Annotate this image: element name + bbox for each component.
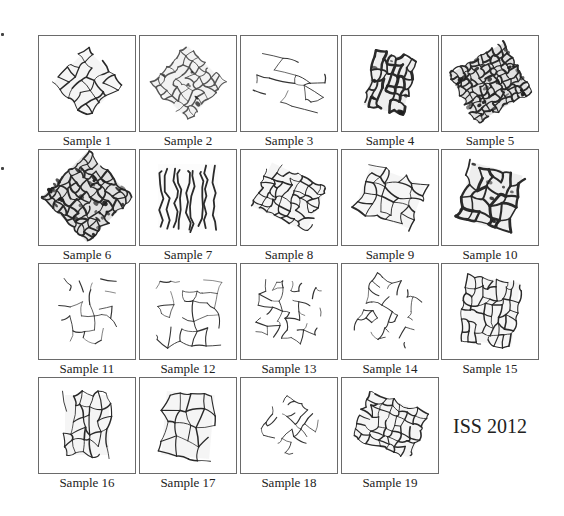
sample-image bbox=[441, 35, 539, 132]
sample-panel: Sample 1 bbox=[38, 35, 136, 148]
sample-panel: Sample 2 bbox=[139, 35, 237, 148]
sample-label: Sample 6 bbox=[38, 247, 136, 262]
sample-image bbox=[240, 263, 338, 360]
sample-panel: Sample 7 bbox=[139, 149, 237, 262]
sample-panel: Sample 14 bbox=[341, 263, 439, 376]
sample-panel: Sample 6 bbox=[38, 149, 136, 262]
sample-panel: Sample 5 bbox=[441, 35, 539, 148]
sample-panel: Sample 15 bbox=[441, 263, 539, 376]
sample-panel: Sample 16 bbox=[38, 377, 136, 490]
sample-image bbox=[38, 149, 136, 246]
sample-image bbox=[240, 35, 338, 132]
sample-panel: Sample 11 bbox=[38, 263, 136, 376]
sample-panel: Sample 12 bbox=[139, 263, 237, 376]
sample-label: Sample 14 bbox=[341, 361, 439, 376]
sample-image bbox=[38, 377, 136, 474]
sample-label: Sample 15 bbox=[441, 361, 539, 376]
sample-image bbox=[441, 149, 539, 246]
sample-label: Sample 8 bbox=[240, 247, 338, 262]
sample-label: Sample 5 bbox=[441, 133, 539, 148]
sample-panel: Sample 13 bbox=[240, 263, 338, 376]
sample-label: Sample 16 bbox=[38, 475, 136, 490]
sample-panel: Sample 8 bbox=[240, 149, 338, 262]
sample-image bbox=[139, 149, 237, 246]
sample-image bbox=[38, 263, 136, 360]
edge-mark bbox=[1, 167, 4, 170]
sample-panel: Sample 18 bbox=[240, 377, 338, 490]
figure-tag: ISS 2012 bbox=[453, 415, 527, 438]
sample-panel: Sample 9 bbox=[341, 149, 439, 262]
sample-image bbox=[38, 35, 136, 132]
sample-label: Sample 11 bbox=[38, 361, 136, 376]
sample-panel: Sample 3 bbox=[240, 35, 338, 148]
sample-image bbox=[240, 377, 338, 474]
sample-label: Sample 3 bbox=[240, 133, 338, 148]
sample-image bbox=[341, 377, 439, 474]
sample-image bbox=[139, 377, 237, 474]
sample-label: Sample 7 bbox=[139, 247, 237, 262]
sample-image bbox=[341, 35, 439, 132]
sample-image bbox=[341, 149, 439, 246]
sample-panel: Sample 19 bbox=[341, 377, 439, 490]
sample-label: Sample 10 bbox=[441, 247, 539, 262]
sample-label: Sample 9 bbox=[341, 247, 439, 262]
sample-label: Sample 19 bbox=[341, 475, 439, 490]
sample-label: Sample 13 bbox=[240, 361, 338, 376]
sample-image bbox=[341, 263, 439, 360]
sample-label: Sample 2 bbox=[139, 133, 237, 148]
sample-panel: Sample 4 bbox=[341, 35, 439, 148]
sample-image bbox=[139, 263, 237, 360]
edge-mark bbox=[1, 33, 4, 36]
sample-label: Sample 12 bbox=[139, 361, 237, 376]
sample-image bbox=[240, 149, 338, 246]
sample-label: Sample 1 bbox=[38, 133, 136, 148]
sample-panel: Sample 10 bbox=[441, 149, 539, 262]
sample-image bbox=[441, 263, 539, 360]
sample-label: Sample 4 bbox=[341, 133, 439, 148]
sample-image bbox=[139, 35, 237, 132]
sample-panel: Sample 17 bbox=[139, 377, 237, 490]
sample-label: Sample 17 bbox=[139, 475, 237, 490]
sample-label: Sample 18 bbox=[240, 475, 338, 490]
